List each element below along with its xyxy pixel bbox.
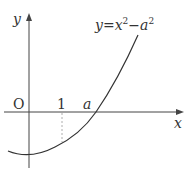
y-axis-arrow-icon (26, 13, 32, 21)
tick-label-1: 1 (57, 96, 66, 112)
parabola-diagram: O 1 a x y y=x2−a2 (0, 0, 191, 180)
equation-label: y=x2−a2 (94, 16, 154, 33)
origin-label: O (13, 96, 24, 112)
parabola-curve (8, 35, 138, 155)
y-axis-label: y (12, 11, 22, 27)
x-axis-label: x (174, 115, 182, 131)
tick-label-a: a (83, 96, 91, 112)
